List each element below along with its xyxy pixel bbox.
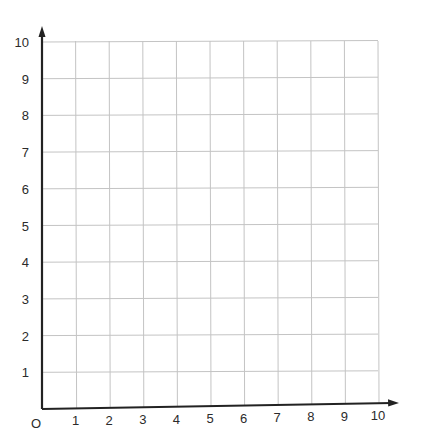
x-tick-label: 10 <box>371 408 385 423</box>
x-tick-label: 3 <box>139 412 146 427</box>
x-axis-arrow-icon <box>388 399 399 406</box>
coordinate-grid-chart: O 1234567891012345678910 <box>0 0 423 443</box>
y-tick-label: 1 <box>22 365 29 380</box>
x-tick-label: 5 <box>206 411 213 426</box>
grid-line-vertical <box>277 41 278 405</box>
grid-lines <box>42 41 379 409</box>
y-tick-label: 9 <box>22 72 29 87</box>
grid-line-vertical <box>176 41 177 407</box>
grid-line-vertical <box>378 41 379 403</box>
origin-label: O <box>31 416 41 431</box>
x-tick-label: 8 <box>307 409 314 424</box>
grid-line-horizontal <box>42 371 378 373</box>
y-axis-arrow-icon <box>39 26 46 37</box>
grid-line-vertical <box>109 41 110 408</box>
y-tick-label: 6 <box>22 182 29 197</box>
x-tick-label: 4 <box>173 412 180 427</box>
grid-line-vertical <box>244 41 245 406</box>
y-tick-label: 5 <box>22 219 29 234</box>
grid-line-vertical <box>210 41 211 406</box>
x-tick-label: 6 <box>240 411 247 426</box>
x-tick-label: 9 <box>341 409 348 424</box>
x-tick-label: 1 <box>72 413 79 428</box>
y-tick-label: 10 <box>15 35 29 50</box>
y-tick-label: 7 <box>22 145 29 160</box>
grid-line-vertical <box>76 41 77 408</box>
y-tick-label: 3 <box>22 292 29 307</box>
y-tick-label: 4 <box>22 255 29 270</box>
grid-line-vertical <box>143 41 144 407</box>
y-tick-label: 2 <box>22 329 29 344</box>
y-tick-label: 8 <box>22 108 29 123</box>
grid-line-horizontal <box>42 334 378 336</box>
grid-line-vertical <box>344 41 345 404</box>
x-axis <box>42 403 392 409</box>
grid-line-horizontal <box>42 297 378 299</box>
grid-line-vertical <box>311 41 312 404</box>
x-tick-label: 7 <box>274 410 281 425</box>
grid-line-horizontal <box>42 224 378 226</box>
x-tick-label: 2 <box>106 413 113 428</box>
grid-line-horizontal <box>42 261 378 263</box>
